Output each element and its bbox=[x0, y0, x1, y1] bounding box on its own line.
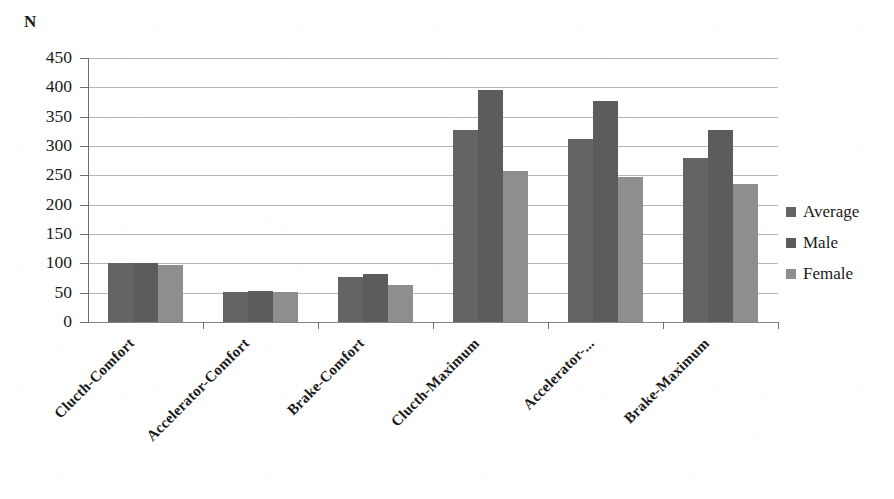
bar-chart: N 450400350300250200150100500 Clucth-Com… bbox=[0, 0, 894, 499]
y-axis-tick-mark bbox=[80, 117, 89, 118]
legend-label: Female bbox=[803, 265, 853, 282]
x-axis-category-label: Brake-Maximum bbox=[602, 335, 713, 446]
legend-label: Male bbox=[803, 234, 838, 251]
y-axis-tick-mark bbox=[80, 175, 89, 176]
legend-swatch-icon bbox=[786, 207, 796, 217]
chart-legend: AverageMaleFemale bbox=[786, 196, 890, 289]
x-axis-tick-mark bbox=[433, 322, 434, 329]
x-axis-tick-mark bbox=[778, 322, 779, 329]
x-axis-category-label: Accelerator-Comfort bbox=[142, 335, 253, 446]
x-axis-tick-mark bbox=[203, 322, 204, 329]
legend-item-male[interactable]: Male bbox=[786, 227, 890, 258]
y-axis-tick-mark bbox=[80, 146, 89, 147]
x-axis-category-label: Accelerator-... bbox=[487, 335, 598, 446]
y-axis-tick-mark bbox=[80, 234, 89, 235]
legend-item-female[interactable]: Female bbox=[786, 258, 890, 289]
x-axis-tick-mark bbox=[548, 322, 549, 329]
legend-label: Average bbox=[803, 203, 859, 220]
legend-swatch-icon bbox=[786, 269, 796, 279]
x-axis-tick-mark bbox=[663, 322, 664, 329]
y-axis-tick-mark bbox=[80, 205, 89, 206]
y-axis-tick-mark bbox=[80, 263, 89, 264]
y-axis-tick-mark bbox=[80, 87, 89, 88]
x-axis-category-labels: Clucth-ComfortAccelerator-ComfortBrake-C… bbox=[0, 0, 894, 499]
legend-item-average[interactable]: Average bbox=[786, 196, 890, 227]
y-axis-tick-mark bbox=[80, 58, 89, 59]
y-axis-tick-mark bbox=[80, 293, 89, 294]
x-axis-category-label: Clucth-Comfort bbox=[27, 335, 138, 446]
x-axis-category-label: Brake-Comfort bbox=[257, 335, 368, 446]
legend-swatch-icon bbox=[786, 238, 796, 248]
y-axis-tick-mark bbox=[80, 322, 89, 323]
x-axis-category-label: Clucth-Maximum bbox=[372, 335, 483, 446]
x-axis-tick-mark bbox=[318, 322, 319, 329]
